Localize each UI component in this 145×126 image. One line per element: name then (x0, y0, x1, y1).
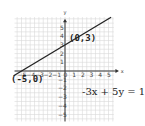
svg-text:x: x (121, 68, 124, 74)
svg-text:4: 4 (60, 32, 64, 39)
svg-text:y: y (64, 9, 67, 16)
svg-text:−5: −5 (58, 111, 67, 118)
svg-text:−3: −3 (58, 93, 67, 100)
svg-text:5: 5 (60, 24, 64, 31)
svg-text:3: 3 (90, 71, 94, 78)
svg-text:5: 5 (107, 71, 111, 78)
point-label-y-intercept: (0,3) (69, 33, 96, 43)
point-label-x-intercept: (-5,0) (11, 74, 44, 84)
svg-text:−1: −1 (58, 76, 67, 83)
line-graph: xy −5−4−3−2−1012345−5−4−3−2−112345 (0, 0, 145, 126)
svg-text:1: 1 (60, 58, 64, 65)
svg-text:1: 1 (72, 71, 76, 78)
svg-text:2: 2 (60, 50, 64, 57)
svg-text:4: 4 (98, 71, 102, 78)
svg-text:−2: −2 (44, 71, 53, 78)
svg-text:−2: −2 (58, 84, 67, 91)
equation-label: -3x + 5y = 15 (82, 86, 145, 97)
svg-text:−4: −4 (58, 102, 67, 109)
svg-text:2: 2 (81, 71, 85, 78)
